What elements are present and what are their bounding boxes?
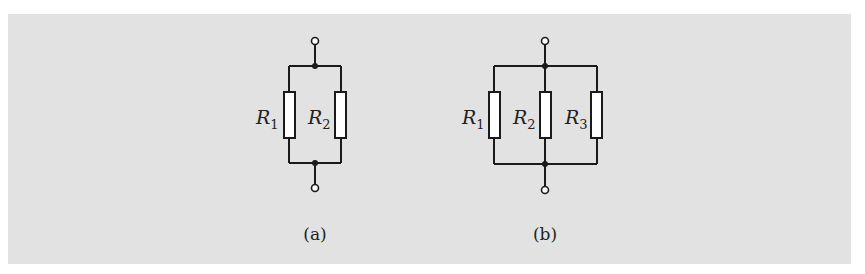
circuit-b-labels: R1 R2 R3 (b): [461, 106, 588, 244]
terminal-top-icon: [312, 38, 319, 45]
label-r2: R2: [307, 106, 331, 132]
resistor-r2: [335, 92, 346, 138]
terminal-bottom-icon: [542, 187, 549, 194]
junction-bottom-icon: [542, 161, 548, 167]
junction-top-icon: [542, 63, 548, 69]
resistor-r1: [284, 92, 295, 138]
resistor-r3: [591, 92, 602, 138]
circuit-b: [489, 38, 602, 194]
label-r3: R3: [564, 106, 588, 132]
label-r1: R1: [255, 106, 279, 132]
resistor-r1: [489, 92, 500, 138]
parallel-resistor-diagram: R1 R2 (a) R1: [0, 0, 865, 274]
caption-b: (b): [533, 224, 557, 244]
resistor-r2: [540, 92, 551, 138]
terminal-top-icon: [542, 38, 549, 45]
terminal-bottom-icon: [312, 185, 319, 192]
caption-a: (a): [303, 224, 326, 244]
label-r1: R1: [461, 106, 485, 132]
junction-top-icon: [312, 63, 318, 69]
junction-bottom-icon: [312, 160, 318, 166]
label-r2: R2: [512, 106, 536, 132]
